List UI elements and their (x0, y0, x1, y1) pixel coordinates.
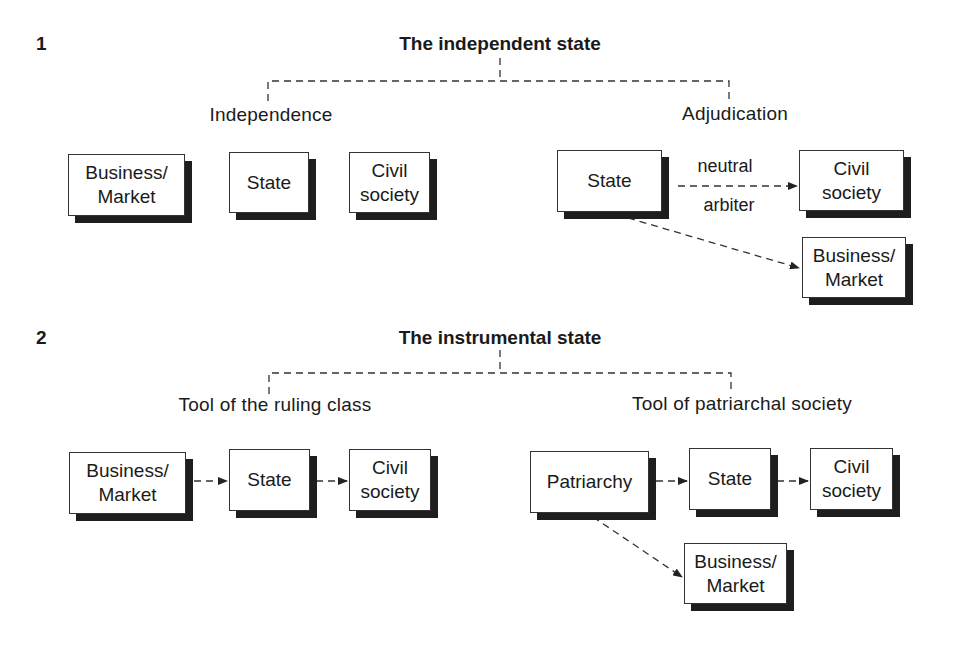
box-state: State (689, 448, 771, 510)
box-business-market: Business/ Market (684, 543, 787, 604)
box-civil-society: Civil society (349, 152, 430, 213)
connector-lines (0, 0, 958, 649)
bracket-2 (269, 373, 731, 394)
arrow-patriarchy-to-business (593, 517, 682, 577)
edge-label-neutral: neutral (697, 156, 752, 177)
section-title-2: The instrumental state (399, 327, 602, 349)
section-number-2: 2 (36, 327, 47, 349)
section-number-1: 1 (36, 33, 47, 55)
branch-label-adjudication: Adjudication (682, 103, 788, 125)
branch-label-independence: Independence (210, 104, 333, 126)
box-patriarchy: Patriarchy (530, 451, 649, 513)
box-civil-society: Civil society (810, 448, 893, 510)
section-title-1: The independent state (399, 33, 601, 55)
box-state: State (557, 150, 662, 212)
box-business-market: Business/ Market (802, 237, 906, 298)
arrow-state-to-business-1 (628, 218, 799, 268)
box-civil-society: Civil society (799, 150, 904, 211)
edge-label-arbiter: arbiter (703, 195, 754, 216)
box-civil-society: Civil society (349, 449, 431, 511)
branch-label-patriarchal-society: Tool of patriarchal society (632, 393, 852, 415)
bracket-1 (268, 81, 729, 101)
branch-label-ruling-class: Tool of the ruling class (179, 394, 372, 416)
box-business-market: Business/ Market (69, 452, 186, 514)
box-business-market: Business/ Market (68, 154, 185, 216)
box-state: State (229, 152, 309, 213)
box-state: State (229, 449, 310, 511)
